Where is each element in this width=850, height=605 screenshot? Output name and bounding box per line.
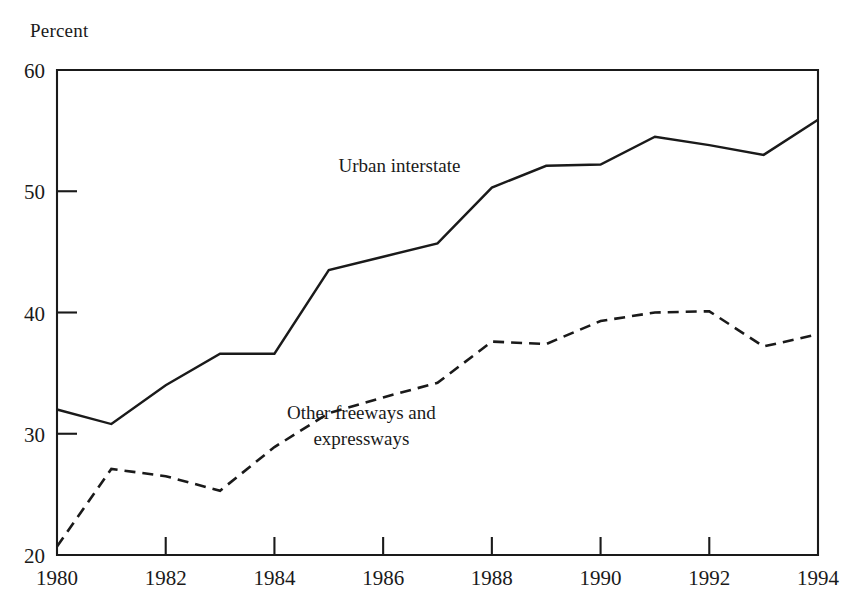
- x-tick-label-1992: 1992: [688, 566, 730, 590]
- x-tick-label-1990: 1990: [580, 566, 622, 590]
- y-tick-label-40: 40: [24, 302, 45, 326]
- series-inline-labels: Urban interstateOther freeways andexpres…: [287, 155, 460, 449]
- series-label-1-line-0: Other freeways and: [287, 402, 436, 423]
- y-tick-label-60: 60: [24, 59, 45, 83]
- y-tick-label-30: 30: [24, 423, 45, 447]
- x-tick-label-1982: 1982: [145, 566, 187, 590]
- series-line-other-freeways-expressways: [57, 311, 818, 546]
- y-tick-label-20: 20: [24, 544, 45, 568]
- x-axis-tick-labels: 19801982198419861988199019921994: [36, 566, 840, 590]
- x-tick-label-1988: 1988: [471, 566, 513, 590]
- chart-container: Percent 2030405060 198019821984198619881…: [0, 0, 850, 605]
- x-tick-label-1980: 1980: [36, 566, 78, 590]
- series-label-1-line-1: expressways: [313, 428, 409, 449]
- x-tick-label-1994: 1994: [797, 566, 840, 590]
- x-tick-label-1986: 1986: [362, 566, 404, 590]
- y-axis-tick-labels: 2030405060: [24, 59, 45, 568]
- x-tick-label-1984: 1984: [253, 566, 296, 590]
- line-chart-svg: 2030405060 19801982198419861988199019921…: [0, 0, 850, 605]
- axis-tick-marks: [57, 191, 709, 555]
- y-tick-label-50: 50: [24, 180, 45, 204]
- series-label-0-line-0: Urban interstate: [339, 155, 461, 176]
